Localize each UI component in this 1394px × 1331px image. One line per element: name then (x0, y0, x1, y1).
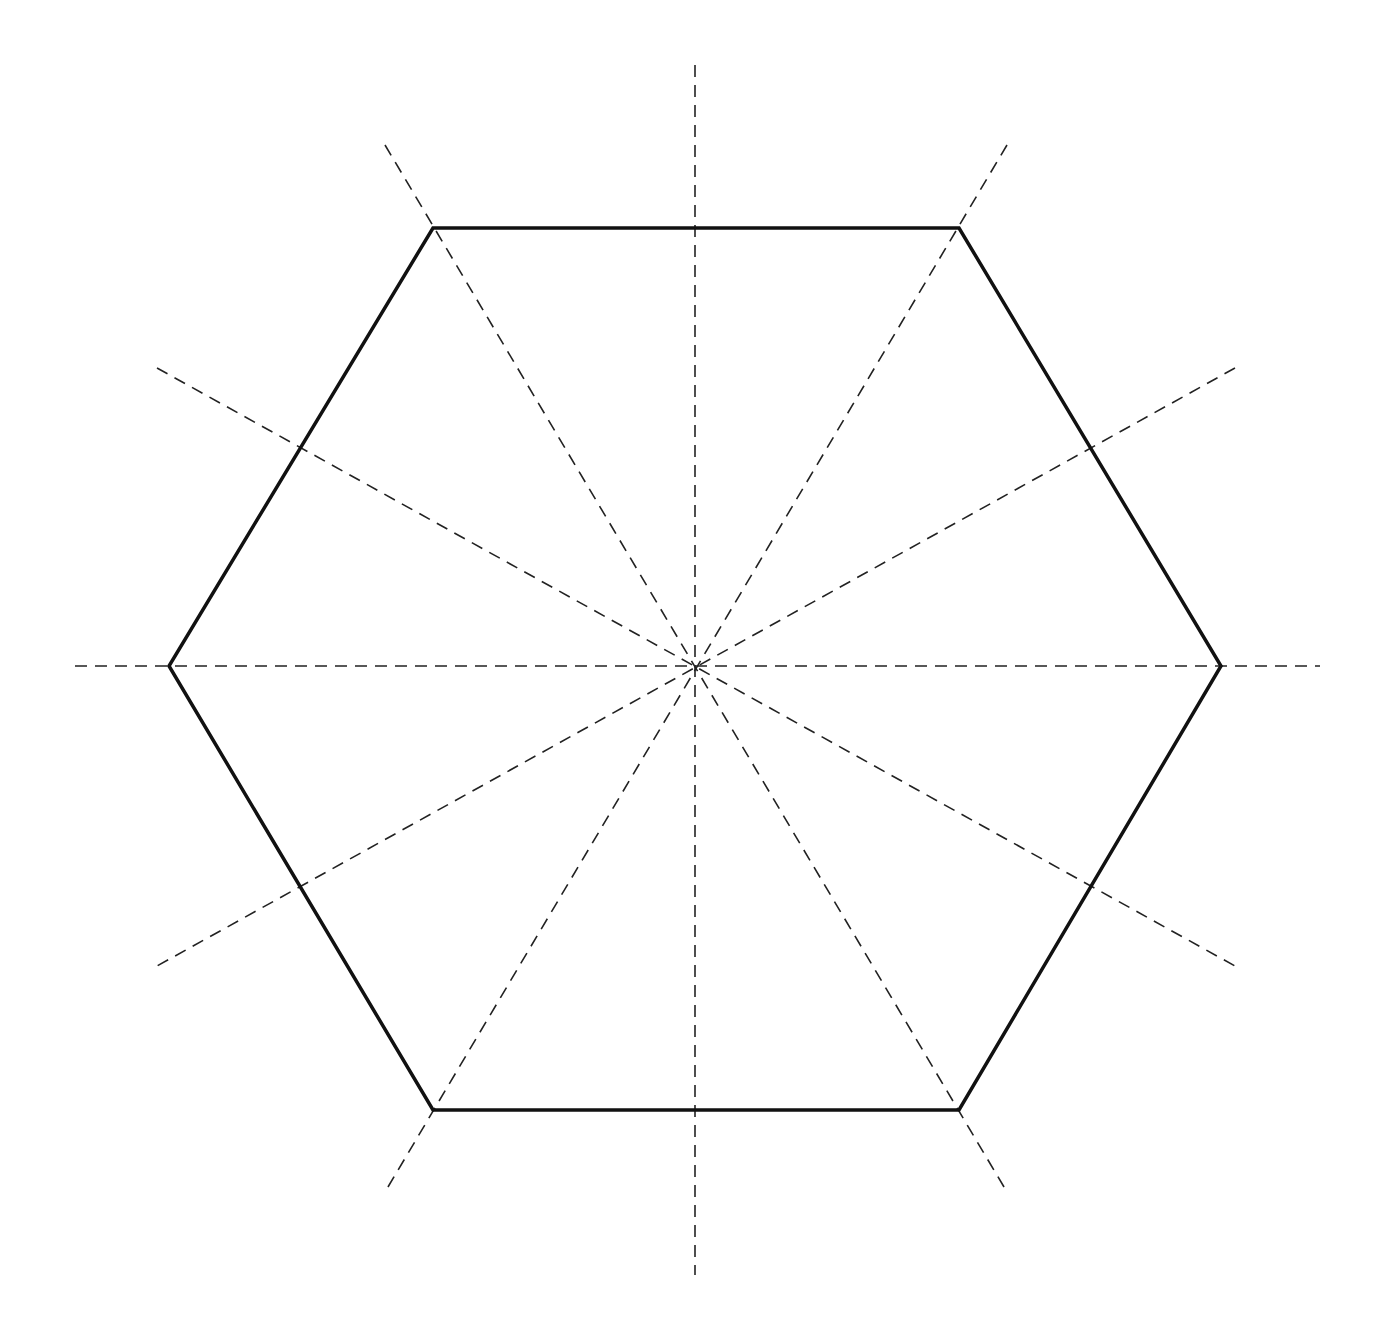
symmetry-lines (75, 65, 1320, 1275)
hexagon-symmetry-diagram (0, 0, 1394, 1331)
